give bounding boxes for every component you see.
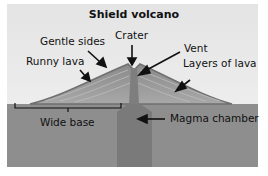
diagram-title: Shield volcano [0, 8, 268, 21]
label-gentle-sides: Gentle sides [40, 36, 105, 47]
gentle-sides-arrow [88, 51, 100, 62]
label-runny-lava: Runny lava [26, 56, 84, 67]
volcano-drawing [0, 0, 268, 176]
shield-volcano-diagram: Shield volcano Gentle sides Crater Vent … [0, 0, 268, 176]
label-vent: Vent [184, 43, 208, 54]
label-wide-base: Wide base [40, 117, 95, 128]
label-crater: Crater [115, 30, 148, 41]
label-magma-chamber: Magma chamber [170, 113, 259, 124]
magma-chamber [117, 104, 152, 167]
label-layers-of-lava: Layers of lava [183, 58, 257, 69]
